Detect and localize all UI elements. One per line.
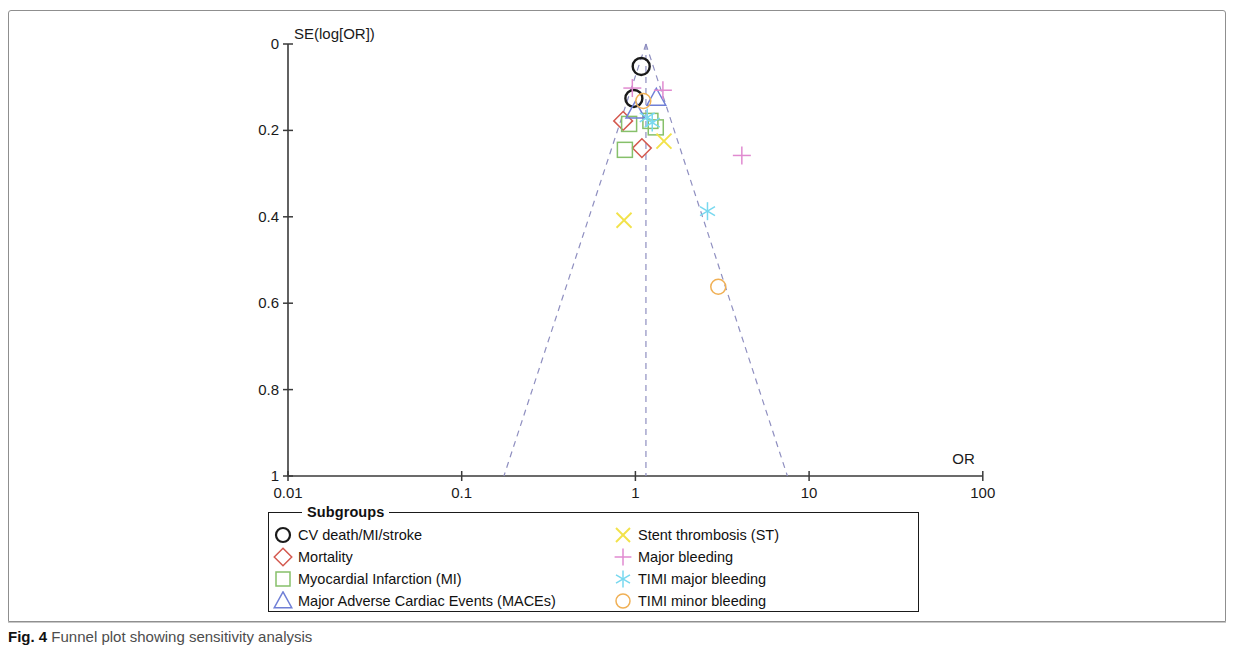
square-marker — [276, 572, 290, 586]
data-point-triangle — [274, 591, 292, 607]
data-point-square — [617, 142, 632, 157]
data-point-asterisk — [700, 202, 715, 220]
legend-item[interactable]: TIMI minor bleeding — [612, 590, 779, 611]
y-axis-tick-label: 0.4 — [258, 208, 279, 225]
legend-marker-cross-x — [612, 525, 638, 545]
y-axis-title: SE(log[OR]) — [294, 25, 375, 42]
y-axis-tick-label: 0.8 — [258, 381, 279, 398]
caption-label: Fig. 4 — [8, 628, 47, 645]
legend-item[interactable]: Mortality — [272, 546, 556, 567]
data-point-circle — [633, 58, 650, 75]
legend-item[interactable]: Myocardial Infarction (MI) — [272, 568, 556, 589]
data-point-asterisk — [616, 570, 630, 587]
x-axis-tick-label: 10 — [801, 484, 818, 500]
diamond-marker — [274, 548, 292, 566]
series-cross-x — [617, 134, 672, 228]
legend-item[interactable]: TIMI major bleeding — [612, 568, 779, 589]
circle-marker — [616, 594, 630, 608]
legend-item[interactable]: Major bleeding — [612, 546, 779, 567]
data-point-plus — [654, 81, 672, 99]
legend-marker-plus — [612, 547, 638, 567]
data-point-circle — [616, 594, 630, 608]
legend-item-label: TIMI minor bleeding — [638, 591, 766, 611]
circle-marker — [633, 58, 650, 75]
legend-marker-square — [272, 569, 298, 589]
data-point-square — [276, 572, 290, 586]
x-axis-title: OR — [952, 450, 975, 467]
legend-title: Subgroups — [302, 504, 389, 520]
data-point-diamond — [633, 139, 652, 158]
funnel-plot-canvas: 0.010.111010000.20.40.60.81SE(log[OR])OR — [0, 0, 1235, 500]
data-point-cross-x — [617, 213, 632, 228]
circle-marker — [711, 279, 726, 294]
triangle-marker — [274, 591, 292, 607]
x-axis-tick-label: 0.01 — [273, 484, 302, 500]
caption-divider — [8, 622, 1226, 623]
data-point-cross-x — [656, 134, 671, 149]
y-axis-tick-label: 0.6 — [258, 294, 279, 311]
legend-column-right: Stent thrombosis (ST)Major bleedingTIMI … — [612, 524, 779, 612]
legend-marker-diamond — [272, 547, 298, 567]
legend-item-label: Major bleeding — [638, 547, 733, 567]
square-marker — [617, 142, 632, 157]
legend-item-label: Myocardial Infarction (MI) — [298, 569, 462, 589]
data-point-diamond — [614, 112, 633, 131]
x-axis-tick-label: 1 — [631, 484, 639, 500]
legend-marker-asterisk — [612, 569, 638, 589]
legend-marker-triangle — [272, 591, 298, 611]
data-point-circle — [276, 528, 290, 542]
figure-caption: Fig. 4 Funnel plot showing sensitivity a… — [8, 628, 1108, 645]
legend-item-label: Major Adverse Cardiac Events (MACEs) — [298, 591, 556, 611]
legend-item-label: TIMI major bleeding — [638, 569, 766, 589]
series-asterisk — [640, 108, 715, 220]
y-axis-tick-label: 0 — [271, 35, 279, 52]
y-axis-tick-label: 0.2 — [258, 121, 279, 138]
funnel-right-bound — [646, 44, 787, 476]
x-axis-tick-label: 100 — [970, 484, 995, 500]
y-axis-tick-label: 1 — [271, 467, 279, 484]
data-point-plus — [733, 146, 751, 164]
caption-text: Funnel plot showing sensitivity analysis — [51, 628, 312, 645]
circle-marker — [276, 528, 290, 542]
legend-column-left: CV death/MI/strokeMortalityMyocardial In… — [272, 524, 556, 612]
diamond-marker — [614, 112, 633, 131]
data-point-circle — [711, 279, 726, 294]
legend-marker-circle — [272, 525, 298, 545]
legend-item-label: Mortality — [298, 547, 353, 567]
legend-item[interactable]: Stent thrombosis (ST) — [612, 524, 779, 545]
legend-marker-circle — [612, 591, 638, 611]
legend-item-label: CV death/MI/stroke — [298, 525, 422, 545]
data-point-plus — [615, 548, 632, 565]
data-point-diamond — [274, 548, 292, 566]
legend-item[interactable]: CV death/MI/stroke — [272, 524, 556, 545]
x-axis-tick-label: 0.1 — [451, 484, 472, 500]
figure-root: 0.010.111010000.20.40.60.81SE(log[OR])OR… — [0, 0, 1235, 661]
legend-item-label: Stent thrombosis (ST) — [638, 525, 779, 545]
diamond-marker — [633, 139, 652, 158]
legend-item[interactable]: Major Adverse Cardiac Events (MACEs) — [272, 590, 556, 611]
funnel-left-bound — [504, 44, 646, 476]
data-point-cross-x — [616, 528, 630, 542]
